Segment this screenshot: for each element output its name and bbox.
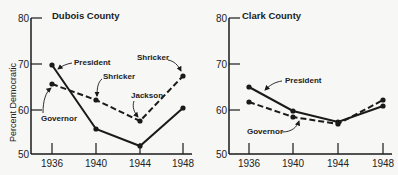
dubois-chart: Percent Democratic 80 70 60 50 1936 1940…	[8, 10, 195, 169]
x-tick-1948: 1948	[172, 158, 195, 169]
y-tick-70: 70	[18, 59, 30, 70]
x-tick-1936: 1936	[41, 158, 64, 169]
governor-line	[249, 100, 383, 124]
clark-chart: 80 70 60 50 1936 1940 1944 1948 Clark Co…	[216, 10, 395, 169]
chart-title: Dubois County	[52, 10, 120, 21]
annotation-shricker-1948: Shricker	[137, 53, 169, 62]
y-tick-60: 60	[216, 105, 228, 116]
annotation-president: President	[285, 76, 322, 85]
x-tick-1944: 1944	[327, 158, 350, 169]
y-tick-80: 80	[18, 13, 30, 24]
y-tick-50: 50	[216, 149, 228, 160]
annotation-governor: Governor	[247, 127, 283, 136]
annotation-shricker-1940: Shricker	[103, 72, 135, 81]
x-tick-1948: 1948	[372, 158, 395, 169]
data-points	[246, 84, 385, 126]
y-tick-60: 60	[18, 105, 30, 116]
x-tick-1936: 1936	[238, 158, 261, 169]
president-line	[249, 87, 383, 122]
annotation-governor: Governor	[41, 114, 77, 123]
x-tick-1944: 1944	[129, 158, 152, 169]
y-tick-80: 80	[216, 13, 228, 24]
x-tick-1940: 1940	[85, 158, 108, 169]
y-tick-70: 70	[216, 59, 228, 70]
chart-title: Clark County	[242, 10, 302, 21]
y-axis-label: Percent Democratic	[8, 62, 18, 142]
annotation-jackson: Jackson	[131, 91, 163, 100]
annotation-president: President	[74, 58, 111, 67]
x-tick-1940: 1940	[282, 158, 305, 169]
figure: Percent Democratic 80 70 60 50 1936 1940…	[0, 0, 398, 175]
y-tick-50: 50	[18, 149, 30, 160]
